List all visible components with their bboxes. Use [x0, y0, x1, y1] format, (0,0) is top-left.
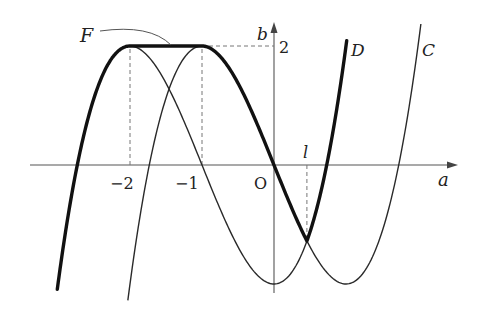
a-axis-arrow-icon [447, 162, 458, 169]
tick-label-neg1: −1 [175, 174, 199, 193]
label-b-axis: b [257, 24, 268, 44]
axes [30, 22, 458, 293]
f-leader-line [100, 29, 171, 45]
tick-label-2: 2 [279, 38, 289, 57]
b-axis-arrow-icon [271, 22, 278, 33]
diagram-canvas: F D C b 2 −2 −1 O l a [0, 0, 481, 310]
label-c: C [422, 40, 435, 60]
label-f: F [79, 24, 94, 46]
label-a-axis: a [438, 169, 449, 190]
dashed-guides [130, 46, 307, 241]
label-d: D [350, 40, 365, 60]
label-l: l [303, 143, 308, 162]
tick-label-neg2: −2 [110, 174, 134, 193]
origin-label: O [254, 174, 267, 193]
